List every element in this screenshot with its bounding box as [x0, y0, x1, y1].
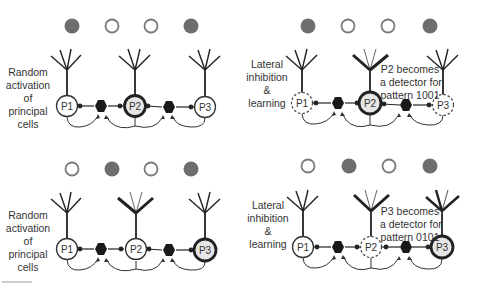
- input-filled-icon: [105, 162, 120, 177]
- side-label-line: Lateral: [240, 58, 294, 71]
- side-label-line: cells: [2, 261, 54, 274]
- cell-label: P1: [297, 242, 310, 253]
- side-label-line: activation: [2, 222, 54, 235]
- dendrite-icon: [119, 49, 150, 95]
- side-label-line: of: [2, 235, 54, 248]
- input-filled-icon: [301, 19, 316, 34]
- input-empty-icon: [382, 20, 395, 33]
- interneuron-icon: [332, 241, 344, 253]
- feedback-arrows: [67, 259, 205, 271]
- detector-note: P2 becomes a detector for pattern 1001: [380, 63, 440, 102]
- input-filled-icon: [184, 19, 199, 34]
- input-filled-icon: [184, 162, 199, 177]
- side-label-line: Random: [2, 209, 54, 222]
- input-filled-icon: [342, 159, 357, 174]
- input-filled-icon: [423, 159, 438, 174]
- cell-label: P1: [296, 98, 309, 109]
- input-empty-icon: [145, 20, 158, 33]
- side-label-line: learning: [241, 238, 295, 251]
- cell-label: P2: [365, 242, 378, 253]
- cell-label: P1: [61, 101, 74, 112]
- side-label: Lateral inhibition & learning: [241, 199, 295, 251]
- side-label: Lateral inhibition & learning: [240, 58, 294, 110]
- note-line: a detector for: [380, 218, 440, 231]
- panel-top-right: P1 P2 P3 Lateral inhibition & learning P…: [240, 0, 479, 143]
- feedback-arrows: [303, 257, 442, 270]
- dendrite-icon: [189, 49, 220, 96]
- dendrite-icon: [51, 49, 81, 96]
- cell-label: P2: [129, 101, 142, 112]
- note-line: a detector for: [380, 76, 440, 89]
- cell-label: P3: [199, 245, 212, 256]
- note-line: P3 becomes: [380, 205, 440, 218]
- input-empty-icon: [106, 20, 119, 33]
- cell-label: P1: [61, 244, 74, 255]
- side-label: Random activation of principal cells: [2, 66, 54, 131]
- note-line: P2 becomes: [380, 63, 440, 76]
- panel-bottom-left: P1 P2 P3 Random activation of principal …: [0, 143, 240, 286]
- side-label-line: Random: [2, 66, 54, 79]
- dendrite-icon: [189, 192, 220, 239]
- dendrite-icon: [118, 192, 153, 239]
- side-label-line: &: [241, 225, 295, 238]
- input-empty-icon: [302, 160, 315, 173]
- cell-label: P2: [130, 244, 143, 255]
- input-filled-icon: [65, 19, 80, 34]
- side-label-line: activation: [2, 79, 54, 92]
- side-label: Random activation of principal cells: [2, 209, 54, 274]
- input-empty-icon: [342, 20, 355, 33]
- side-label-line: &: [240, 84, 294, 97]
- side-label-line: Lateral: [241, 199, 295, 212]
- side-label-line: principal: [2, 105, 54, 118]
- panel-top-left: P1 P2 P3 Random activation of principal …: [0, 0, 240, 143]
- panel-bottom-right: P1 P2 P3 Lateral inhibition & learning P…: [240, 143, 479, 286]
- interneuron-icon: [95, 243, 107, 255]
- note-line: pattern 1001: [380, 89, 440, 102]
- input-empty-icon: [66, 163, 79, 176]
- dendrite-icon: [51, 192, 81, 239]
- input-empty-icon: [383, 160, 396, 173]
- cell-label: P2: [364, 98, 377, 109]
- input-empty-icon: [145, 163, 158, 176]
- interneuron-icon: [163, 244, 175, 256]
- interneuron-icon: [163, 101, 175, 113]
- input-filled-icon: [423, 19, 438, 34]
- detector-note: P3 becomes a detector for pattern 0101: [380, 205, 440, 244]
- note-line: pattern 0101: [380, 231, 440, 244]
- side-label-line: learning: [240, 97, 294, 110]
- side-label-line: principal: [2, 248, 54, 261]
- side-label-line: inhibition: [241, 212, 295, 225]
- side-label-line: of: [2, 92, 54, 105]
- interneuron-icon: [332, 97, 344, 109]
- side-label-line: inhibition: [240, 71, 294, 84]
- side-label-line: cells: [2, 118, 54, 131]
- caption-fragment: [2, 281, 32, 283]
- interneuron-icon: [95, 100, 107, 112]
- cell-label: P3: [199, 102, 212, 113]
